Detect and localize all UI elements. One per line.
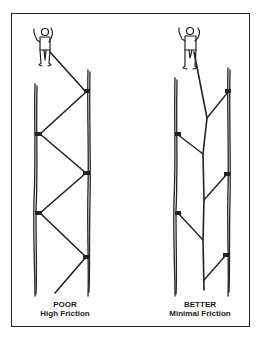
- right-crack-lines: [174, 68, 231, 296]
- poor-panel-drawing: [34, 28, 91, 296]
- better-rope: [194, 52, 207, 290]
- illustration: [0, 0, 261, 338]
- better-description-label: Minimal Friction: [160, 309, 240, 318]
- poor-rope: [40, 52, 86, 293]
- better-panel-drawing: [174, 28, 231, 297]
- poor-caption: POOR High Friction: [25, 300, 105, 318]
- better-caption: BETTER Minimal Friction: [160, 300, 240, 318]
- poor-climber-icon: [34, 28, 53, 66]
- poor-rating-label: POOR: [25, 300, 105, 309]
- better-rating-label: BETTER: [160, 300, 240, 309]
- poor-description-label: High Friction: [25, 309, 105, 318]
